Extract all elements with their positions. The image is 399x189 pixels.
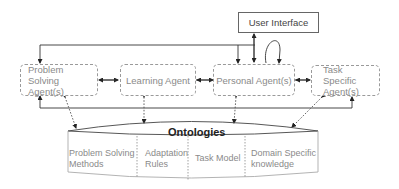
user-interface-label: User Interface [249,17,309,28]
task-specific-agent-box: Task Specific Agent(s) [311,65,380,96]
task-specific-agent-label: Task Specific Agent(s) [323,64,375,97]
ontologies-title: Ontologies [168,126,225,138]
ontology-section-domain-specific-knowledge: Domain Specific knowledge [251,148,317,169]
personal-agent-box: Personal Agent(s) [213,64,295,96]
learning-agent-label: Learning Agent [126,75,190,86]
problem-solving-agent-box: Problem Solving Agent(s) [20,64,98,96]
problem-solving-agent-label: Problem Solving Agent(s) [28,64,88,97]
user-interface-box: User Interface [238,12,319,33]
ontology-section-adaptation-rules: Adaptation Rules [145,148,189,169]
ontology-section-problem-solving-methods: Problem Solving Methods [69,148,135,169]
learning-agent-box: Learning Agent [120,64,196,96]
ontology-section-task-model: Task Model [195,153,245,164]
personal-agent-label: Personal Agent(s) [216,75,292,86]
